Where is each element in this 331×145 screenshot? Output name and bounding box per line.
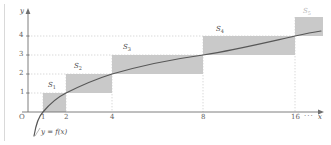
x-axis-label: x bbox=[318, 114, 322, 121]
function-label: y = f(x) bbox=[41, 129, 67, 136]
area-label-s3: S3 bbox=[123, 44, 131, 52]
area-label-s2-sub: 2 bbox=[79, 65, 82, 71]
area-label-s1-sub: 1 bbox=[53, 84, 56, 90]
rect-group bbox=[43, 17, 323, 112]
y-tick-label-3: 3 bbox=[19, 51, 23, 58]
x-axis-ellipsis: ··· bbox=[304, 113, 314, 120]
y-axis-arrowhead bbox=[26, 8, 31, 14]
y-axis-label: y bbox=[20, 8, 24, 15]
area-label-s5: S5 bbox=[303, 8, 311, 16]
area-label-s3-sub: 3 bbox=[128, 46, 131, 52]
area-label-s5-sub: 5 bbox=[308, 10, 311, 16]
area-label-s2: S2 bbox=[74, 63, 82, 71]
rect-s1 bbox=[43, 93, 66, 112]
figure-container: 4 3 2 1 y O 1 2 4 8 16 ··· x y = f(x) S1… bbox=[0, 0, 331, 145]
area-label-s1: S1 bbox=[48, 82, 56, 90]
chart-svg bbox=[0, 0, 331, 145]
y-tick-label-1: 1 bbox=[20, 89, 24, 96]
plot-area bbox=[0, 0, 331, 145]
x-tick-label-16: 16 bbox=[291, 114, 300, 121]
x-tick-label-8: 8 bbox=[201, 114, 205, 121]
y-tick-label-2: 2 bbox=[19, 70, 23, 77]
area-label-s4: S4 bbox=[216, 26, 224, 34]
x-tick-label-1: 1 bbox=[41, 114, 45, 121]
y-tick-label-4: 4 bbox=[19, 32, 23, 39]
x-tick-label-4: 4 bbox=[110, 114, 114, 121]
rect-s3 bbox=[112, 55, 203, 74]
origin-label: O bbox=[19, 114, 25, 121]
area-label-s4-sub: 4 bbox=[221, 28, 224, 34]
x-tick-label-2: 2 bbox=[64, 114, 68, 121]
